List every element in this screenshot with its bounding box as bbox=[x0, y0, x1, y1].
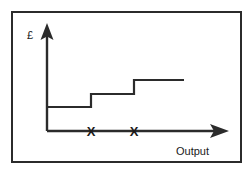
y-axis-label: £ bbox=[27, 29, 33, 41]
x-axis-label: Output bbox=[176, 145, 209, 157]
output-marker-2: X bbox=[130, 124, 139, 139]
stepped-cost-chart: £ Output X X bbox=[0, 0, 252, 172]
output-marker-1: X bbox=[87, 124, 96, 139]
stepped-cost-line bbox=[47, 80, 184, 107]
figure-root: £ Output X X bbox=[0, 0, 252, 172]
